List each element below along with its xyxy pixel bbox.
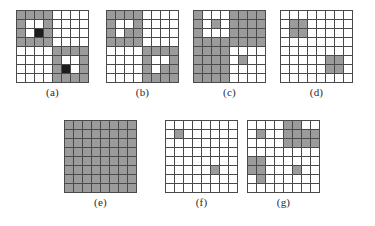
grid-cell [101, 184, 109, 192]
grid-cell [35, 20, 43, 28]
grid-cell [317, 29, 325, 37]
grid-cell [266, 148, 274, 156]
grid-cell [317, 38, 325, 46]
grid-cell [290, 29, 298, 37]
grid-cell [326, 47, 334, 55]
grid-cell [143, 20, 151, 28]
grid-cell [293, 166, 301, 174]
grid-cell [152, 20, 160, 28]
grid-cell [17, 47, 25, 55]
grid-cell [119, 166, 127, 174]
grid-cell [44, 11, 52, 19]
grid-cell [257, 38, 265, 46]
grid-cell [317, 47, 325, 55]
grid-cell [230, 29, 238, 37]
grid-cell [175, 130, 183, 138]
grid-cell [26, 74, 34, 82]
grid-cell [26, 56, 34, 64]
grid-cell [166, 166, 174, 174]
grid-cell [311, 184, 319, 192]
grid-cell [202, 184, 210, 192]
grid-cell [308, 38, 316, 46]
grid-cell [302, 130, 310, 138]
grid-cell [290, 74, 298, 82]
grid-cell [266, 139, 274, 147]
grid-cell [239, 65, 247, 73]
grid-cell [299, 65, 307, 73]
grid-cell [299, 11, 307, 19]
grid-cell [101, 175, 109, 183]
grid-cell [175, 139, 183, 147]
grid-cell [175, 166, 183, 174]
grid-cell [53, 47, 61, 55]
grid-cell [230, 38, 238, 46]
grid-cell [170, 47, 178, 55]
figure-panel-container: (a)(b)(c)(d)(e)(f)(g) [0, 0, 375, 226]
grid-cell [317, 20, 325, 28]
panel-label-e: (e) [94, 196, 107, 208]
grid-cell [284, 166, 292, 174]
grid-cell [166, 175, 174, 183]
grid-cell [184, 166, 192, 174]
grid-cell [317, 56, 325, 64]
grid-cell [101, 130, 109, 138]
grid-cell [311, 139, 319, 147]
grid-cell [220, 157, 228, 165]
grid-cell [212, 74, 220, 82]
grid-cell [299, 56, 307, 64]
grid-cell [221, 20, 229, 28]
grid-cell [193, 184, 201, 192]
grid-cell [257, 175, 265, 183]
grid-a [16, 10, 89, 83]
grid-cell [128, 184, 136, 192]
grid-cell [170, 20, 178, 28]
grid-cell [290, 65, 298, 73]
grid-cell [92, 148, 100, 156]
grid-cell [229, 130, 237, 138]
grid-cell [44, 20, 52, 28]
grid-cell [143, 11, 151, 19]
grid-cell [335, 20, 343, 28]
grid-cell [302, 166, 310, 174]
grid-cell [212, 20, 220, 28]
grid-cell [125, 56, 133, 64]
grid-cell [257, 130, 265, 138]
grid-cell [35, 11, 43, 19]
grid-cell [184, 121, 192, 129]
figure-panel-d: (d) [280, 10, 353, 98]
grid-cell [26, 47, 34, 55]
grid-cell [248, 47, 256, 55]
grid-cell [110, 166, 118, 174]
grid-cell [17, 20, 25, 28]
grid-cell [125, 38, 133, 46]
grid-cell [257, 148, 265, 156]
grid-cell [44, 74, 52, 82]
grid-cell [92, 157, 100, 165]
grid-cell [184, 148, 192, 156]
grid-cell [107, 29, 115, 37]
grid-cell [80, 74, 88, 82]
grid-cell [211, 175, 219, 183]
grid-cell [17, 74, 25, 82]
grid-cell [74, 148, 82, 156]
grid-cell [202, 157, 210, 165]
grid-cell [308, 29, 316, 37]
grid-cell [299, 74, 307, 82]
grid-cell [80, 47, 88, 55]
grid-cell [344, 74, 352, 82]
grid-cell [275, 121, 283, 129]
grid-cell [194, 74, 202, 82]
grid-cell [212, 65, 220, 73]
grid-cell [326, 20, 334, 28]
grid-cell [239, 56, 247, 64]
grid-cell [293, 121, 301, 129]
grid-cell [161, 20, 169, 28]
grid-cell [65, 148, 73, 156]
grid-cell [239, 11, 247, 19]
grid-cell [257, 65, 265, 73]
grid-cell [302, 139, 310, 147]
grid-cell [116, 65, 124, 73]
grid-cell [152, 65, 160, 73]
grid-cell [281, 29, 289, 37]
grid-g [247, 120, 320, 193]
